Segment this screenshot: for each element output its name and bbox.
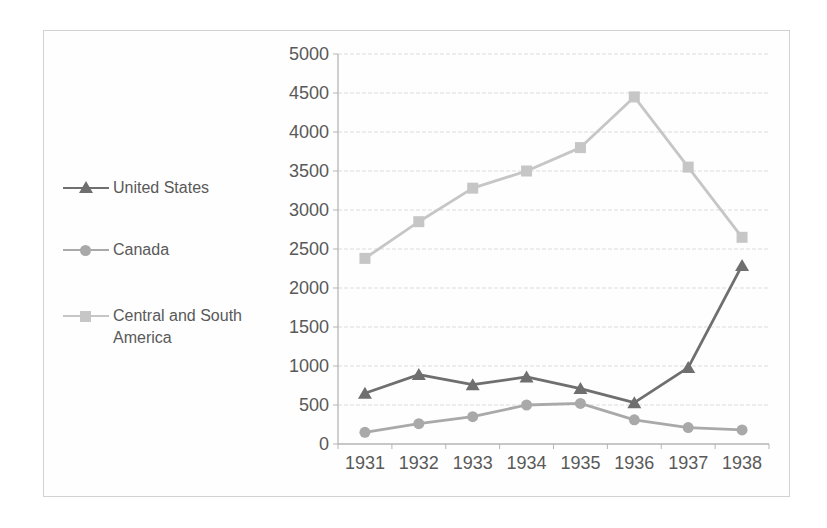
- x-axis-tick-label: 1931: [345, 453, 385, 473]
- y-axis-tick-label: 1500: [289, 317, 329, 337]
- y-axis-tick-label: 0: [319, 434, 329, 454]
- y-axis-tick-label: 4500: [289, 83, 329, 103]
- x-axis-tick-label: 1932: [399, 453, 439, 473]
- square-data-marker: [737, 232, 748, 243]
- triangle-data-marker: [681, 361, 695, 373]
- y-axis-tick-label: 3000: [289, 200, 329, 220]
- circle-data-marker: [359, 427, 370, 438]
- circle-data-marker: [413, 418, 424, 429]
- y-axis-tick-label: 2500: [289, 239, 329, 259]
- circle-data-marker: [575, 398, 586, 409]
- x-axis-tick-label: 1937: [668, 453, 708, 473]
- circle-data-marker: [467, 411, 478, 422]
- scanned-chart-page: United States Canada Central and South A…: [0, 0, 827, 528]
- y-axis-tick-label: 4000: [289, 122, 329, 142]
- square-data-marker: [467, 183, 478, 194]
- line-chart-svg: 0500100015002000250030003500400045005000…: [44, 31, 789, 496]
- square-data-marker: [683, 162, 694, 173]
- square-data-marker: [413, 216, 424, 227]
- y-axis-tick-label: 5000: [289, 44, 329, 64]
- circle-data-marker: [521, 400, 532, 411]
- circle-data-marker: [737, 424, 748, 435]
- x-axis-tick-label: 1934: [507, 453, 547, 473]
- x-axis-tick-label: 1938: [722, 453, 762, 473]
- square-data-marker: [629, 91, 640, 102]
- x-axis-tick-label: 1936: [614, 453, 654, 473]
- x-axis-tick-label: 1935: [560, 453, 600, 473]
- y-axis-tick-label: 3500: [289, 161, 329, 181]
- circle-data-marker: [629, 414, 640, 425]
- square-data-marker: [521, 166, 532, 177]
- y-axis-tick-label: 1000: [289, 356, 329, 376]
- y-axis-tick-label: 2000: [289, 278, 329, 298]
- triangle-data-marker: [735, 259, 749, 271]
- circle-data-marker: [683, 422, 694, 433]
- series-line-united-states: [365, 265, 742, 402]
- square-data-marker: [359, 253, 370, 264]
- square-data-marker: [575, 142, 586, 153]
- series-line-central-and-south-america: [365, 97, 742, 258]
- y-axis-tick-label: 500: [299, 395, 329, 415]
- x-axis-tick-label: 1933: [453, 453, 493, 473]
- chart-figure-frame: United States Canada Central and South A…: [43, 30, 790, 497]
